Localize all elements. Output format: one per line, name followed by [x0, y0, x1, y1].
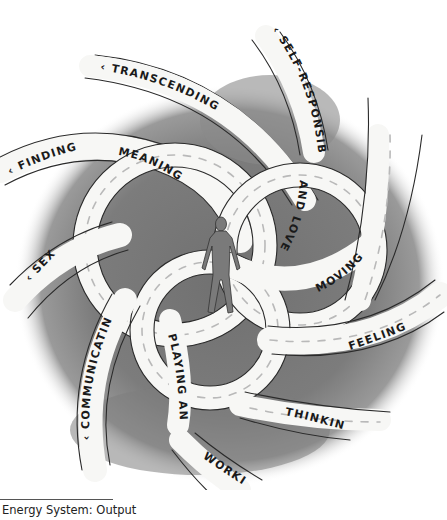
energy-system-illustration: ‹ TRANSCENDING ‹ SELF-RESPONSIBILITY ‹ F…: [0, 0, 447, 490]
figure-caption: Energy System: Output: [2, 503, 136, 517]
caption-divider: [0, 499, 113, 500]
